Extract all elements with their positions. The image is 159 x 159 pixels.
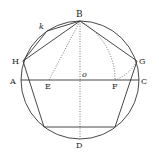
label-C: C: [141, 77, 147, 86]
label-F: F: [112, 82, 118, 91]
label-o: o: [82, 70, 87, 79]
label-A: A: [9, 77, 16, 86]
label-G: G: [139, 57, 145, 66]
pentagon-construction-diagram: B k H G A C E o F D: [0, 0, 159, 159]
label-B: B: [76, 9, 83, 19]
line-EB-dotted: [49, 21, 80, 80]
label-H: H: [12, 57, 19, 66]
label-k: k: [39, 22, 44, 31]
label-D: D: [76, 141, 82, 150]
label-E: E: [45, 82, 51, 91]
